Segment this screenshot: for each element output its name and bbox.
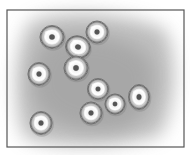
cell-center [95,30,100,35]
cell-illustration-canvas [0,0,190,155]
cell-center [96,87,101,92]
cell-center [73,65,78,70]
cell-illustration [0,0,190,155]
cell [64,56,90,82]
cell [30,112,54,137]
cell [128,85,151,112]
cell-center [39,120,44,125]
cell [40,26,66,51]
cell [28,63,52,88]
cell-center [49,34,54,39]
cell-center [113,102,117,106]
cell-center [89,111,94,116]
cell-center [137,94,142,100]
cell-center [37,71,42,76]
